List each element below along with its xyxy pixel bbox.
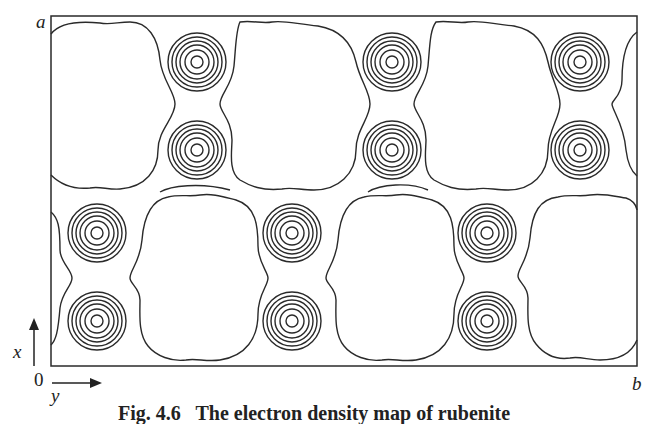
atom-ring: [386, 144, 398, 156]
atom-ring: [574, 56, 586, 68]
atom-ring: [85, 221, 109, 245]
atom-ring: [85, 309, 109, 333]
atom-ring: [176, 129, 218, 171]
atom-ring: [466, 300, 508, 342]
atom-ring: [466, 212, 508, 254]
atom-ring: [76, 212, 118, 254]
y-axis-label: y: [51, 386, 59, 405]
low-density-region: [51, 22, 175, 189]
figure-caption: Fig. 4.6 The electron density map of rub…: [118, 403, 510, 423]
atom-ring: [559, 41, 601, 83]
atom-ring: [475, 221, 499, 245]
x-axis-label: x: [13, 342, 21, 361]
atom-ring: [568, 50, 592, 74]
atom-ring: [475, 309, 499, 333]
x-axis-arrow-icon: [28, 318, 40, 366]
atom-ring: [280, 221, 304, 245]
atom-ring: [380, 50, 404, 74]
low-density-region: [160, 186, 230, 192]
contour-lines: [51, 21, 637, 360]
atom-ring: [185, 50, 209, 74]
atom-ring: [91, 227, 103, 239]
low-density-region: [518, 194, 637, 360]
atom-ring: [176, 41, 218, 83]
low-density-region: [612, 32, 637, 176]
atom-ring: [481, 315, 493, 327]
atom-ring: [191, 144, 203, 156]
atom-ring: [91, 315, 103, 327]
atom-ring: [380, 138, 404, 162]
atom-ring: [481, 227, 493, 239]
atom-ring: [568, 138, 592, 162]
atom-ring: [559, 129, 601, 171]
atom-ring: [286, 227, 298, 239]
low-density-region: [326, 194, 464, 360]
low-density-region: [414, 21, 560, 190]
atom-ring: [371, 41, 413, 83]
corner-label-b: b: [632, 374, 642, 393]
atom-ring: [271, 300, 313, 342]
atom-ring: [263, 292, 321, 350]
atom-ring: [76, 300, 118, 342]
atom-ring: [280, 309, 304, 333]
atom-ring: [271, 212, 313, 254]
low-density-region: [130, 194, 268, 360]
atom-ring: [286, 315, 298, 327]
atom-ring: [574, 144, 586, 156]
atom-ring: [191, 56, 203, 68]
origin-label: 0: [34, 370, 44, 389]
corner-label-a: a: [36, 12, 46, 31]
y-axis-arrow-icon: [52, 377, 102, 389]
atom-ring: [386, 56, 398, 68]
atom-ring: [185, 138, 209, 162]
low-density-region: [368, 185, 428, 192]
atom-ring: [371, 129, 413, 171]
atom-ring: [458, 292, 516, 350]
low-density-region: [220, 21, 370, 190]
